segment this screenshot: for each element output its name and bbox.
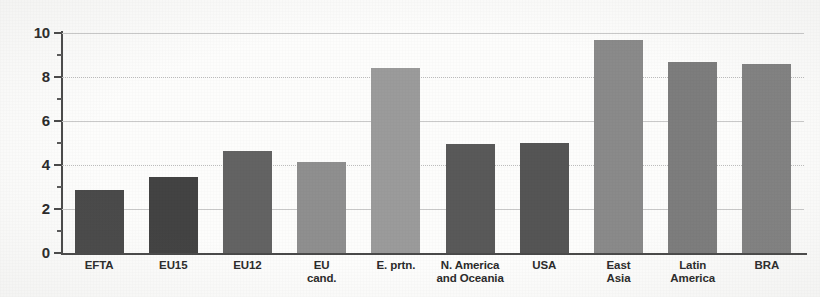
x-axis-tick-label: BRA	[722, 259, 812, 272]
x-axis-tick-label-line: and Oceania	[425, 272, 515, 285]
y-axis-tick-label: 8	[10, 68, 50, 85]
bar	[668, 62, 717, 253]
y-axis-major-tick	[54, 76, 62, 78]
y-axis-major-tick	[54, 120, 62, 122]
bar	[742, 64, 791, 253]
y-axis-major-tick	[54, 252, 62, 254]
plot-area	[62, 33, 804, 253]
y-axis-tick-label: 0	[10, 244, 50, 261]
bar	[371, 68, 420, 253]
y-axis-major-tick	[54, 32, 62, 34]
x-axis-tick-label-line: America	[648, 272, 738, 285]
y-axis-major-tick	[54, 164, 62, 166]
x-axis-line	[61, 253, 807, 255]
bar	[297, 162, 346, 253]
bar	[223, 151, 272, 253]
bar	[446, 144, 495, 253]
bar	[520, 143, 569, 253]
bar	[149, 177, 198, 253]
y-axis-tick-label: 10	[10, 24, 50, 41]
x-axis-tick-label-line: cand.	[277, 272, 367, 285]
y-axis-tick-label: 2	[10, 200, 50, 217]
y-axis-tick-label: 6	[10, 112, 50, 129]
x-axis-tick-label-line: BRA	[722, 259, 812, 272]
bar	[594, 40, 643, 253]
y-axis-major-tick	[54, 208, 62, 210]
bar	[75, 190, 124, 253]
y-axis-tick-label: 4	[10, 156, 50, 173]
chart-page: 0246810 EFTAEU15EU12EUcand.E. prtn.N. Am…	[0, 0, 820, 297]
